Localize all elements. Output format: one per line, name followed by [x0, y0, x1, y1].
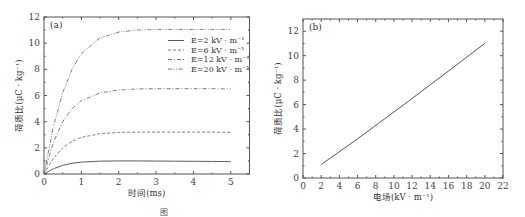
panel-label: (b): [309, 22, 322, 32]
y-tick-label: 8: [34, 64, 40, 74]
x-axis-label: 时间(ms): [128, 188, 165, 198]
y-tick-label: 0: [34, 169, 40, 179]
y-tick-label: 12: [29, 12, 40, 22]
chart-panel-b: 0246810121416182022024681012(b)电场(kV · m…: [273, 19, 509, 202]
x-tick-label: 4: [191, 177, 197, 187]
x-axis-label: 电场(kV · m⁻¹): [373, 192, 433, 202]
x-tick-label: 0: [300, 181, 306, 191]
legend: E=2 kV · m⁻¹E=6 kV · m⁻¹E=12 kV · m⁻¹E=2…: [168, 36, 250, 74]
x-tick-label: 4: [336, 181, 342, 191]
y-tick-label: 4: [34, 117, 40, 127]
x-tick-label: 12: [406, 181, 417, 191]
y-axis-label: 荷质比(μC · kg⁻¹): [273, 62, 283, 134]
x-tick-label: 14: [425, 181, 437, 191]
x-tick-label: 6: [355, 181, 361, 191]
x-tick-label: 5: [228, 177, 234, 187]
series-line: [44, 132, 231, 174]
x-tick-label: 18: [461, 181, 473, 191]
x-tick-label: 1: [78, 177, 84, 187]
x-tick-label: 8: [373, 181, 379, 191]
series-line: [44, 161, 231, 174]
y-tick-label: 8: [293, 75, 299, 85]
legend-item: E=20 kV · m⁻¹: [191, 65, 250, 74]
panel-label: (a): [50, 20, 62, 30]
legend-item: E=12 kV · m⁻¹: [191, 55, 250, 64]
x-tick-label: 16: [443, 181, 455, 191]
y-axis-label: 荷质比(μC · kg⁻¹): [14, 59, 24, 131]
y-tick-label: 4: [293, 124, 299, 134]
y-tick-label: 10: [288, 51, 300, 61]
legend-item: E=2 kV · m⁻¹: [191, 36, 244, 45]
y-tick-label: 0: [293, 173, 299, 183]
chart-panel-a: 012345024681012(a)时间(ms)荷质比(μC · kg⁻¹)E=…: [14, 12, 250, 198]
x-tick-label: 3: [153, 177, 159, 187]
series-line: [321, 43, 485, 164]
y-tick-label: 10: [29, 38, 41, 48]
x-tick-label: 0: [41, 177, 47, 187]
figure-caption: 图: [160, 208, 168, 217]
x-tick-label: 20: [479, 181, 491, 191]
y-tick-label: 12: [288, 26, 299, 36]
x-tick-label: 10: [388, 181, 400, 191]
legend-item: E=6 kV · m⁻¹: [191, 46, 244, 55]
y-tick-label: 6: [293, 100, 299, 110]
x-tick-label: 2: [116, 177, 122, 187]
x-tick-label: 22: [497, 181, 508, 191]
plot-frame: [303, 19, 503, 178]
x-tick-label: 2: [318, 181, 324, 191]
y-tick-label: 2: [34, 143, 40, 153]
figure: 012345024681012(a)时间(ms)荷质比(μC · kg⁻¹)E=…: [0, 0, 525, 217]
y-tick-label: 6: [34, 91, 40, 101]
y-tick-label: 2: [293, 149, 299, 159]
